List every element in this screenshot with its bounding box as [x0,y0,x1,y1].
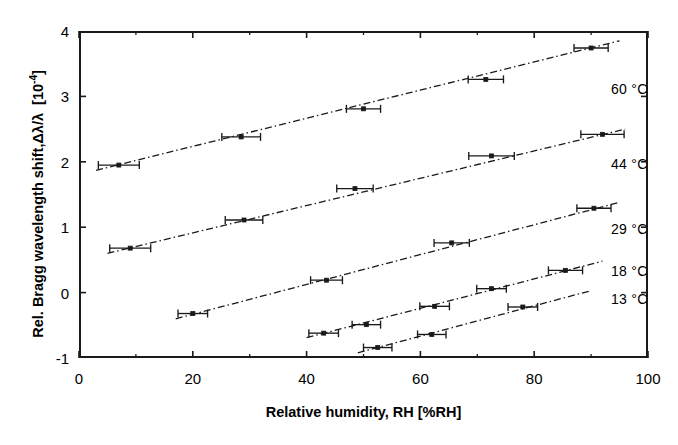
axis-ticks [79,31,648,358]
x-axis-title: Relative humidity, RH [%RH] [79,404,648,420]
x-tick-label: 100 [628,370,668,387]
x-tick-label: 40 [287,370,327,387]
data-points [98,44,624,352]
x-tick-label: 60 [400,370,440,387]
series-label-44c: 44 °C [611,156,648,172]
x-tick-label: 0 [59,370,99,387]
y-axis-title-text: Rel. Bragg wavelength shift, [30,144,46,338]
plot-canvas [79,31,648,358]
series-label-29c: 29 °C [611,221,648,237]
series-label-18c: 18 °C [611,263,648,279]
y-axis-units-exponent: -4 [28,75,39,84]
y-tick-label: 4 [39,23,69,40]
fit-lines [96,41,625,353]
x-tick-label: 80 [514,370,554,387]
y-axis-title: Rel. Bragg wavelength shift,Δλ/λ [10-4] [28,39,46,369]
figure-container: -101234 020406080100 60 °C44 °C29 °C18 °… [0,0,678,445]
series-label-60c: 60 °C [611,81,648,97]
y-axis-units-close: ] [30,70,46,75]
x-tick-label: 20 [173,370,213,387]
series-label-13c: 13 °C [611,291,648,307]
y-axis-units-open: [10 [30,84,46,105]
y-axis-symbol: Δλ/λ [30,113,46,144]
